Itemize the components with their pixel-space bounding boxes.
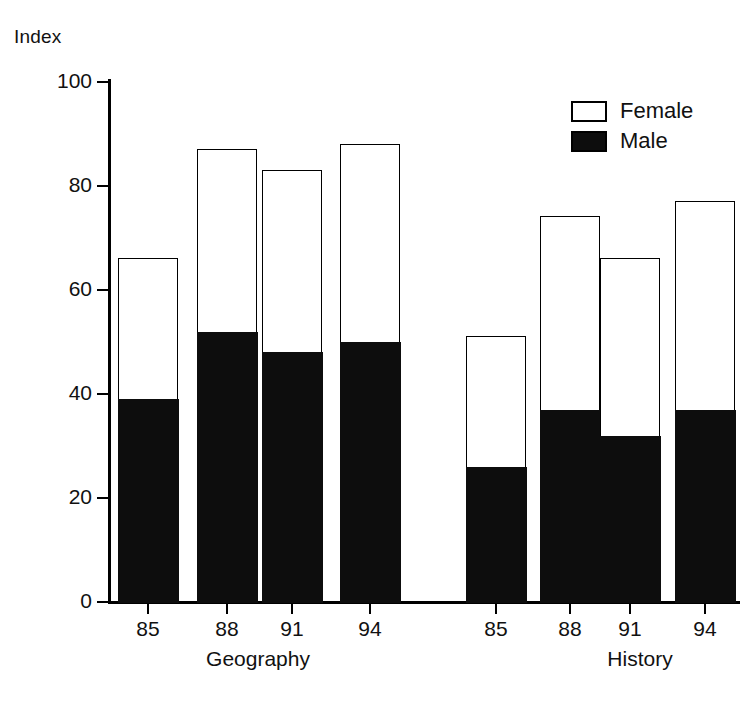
stacked-bar-chart: Index 100 80 60 40 20 0 <box>0 0 747 707</box>
x-tick-geography-91 <box>291 604 293 614</box>
group-label-history: History <box>560 647 720 671</box>
bar-history-85 <box>466 336 526 602</box>
bar-geography-94 <box>340 144 400 602</box>
y-tick-label-60: 60 <box>38 278 92 299</box>
legend: Female Male <box>571 96 741 156</box>
x-tick-label-geography-94: 94 <box>340 617 400 641</box>
bar-geography-88 <box>197 149 257 602</box>
x-tick-label-geography-91: 91 <box>262 617 322 641</box>
legend-item-male: Male <box>571 126 741 156</box>
group-label-geography: Geography <box>178 647 338 671</box>
y-tick-label-100: 100 <box>38 70 92 91</box>
y-tick-20 <box>97 497 109 499</box>
x-tick-label-history-85: 85 <box>466 617 526 641</box>
legend-label-male: Male <box>620 130 668 152</box>
y-tick-40 <box>97 393 109 395</box>
bar-history-88 <box>540 216 600 602</box>
x-tick-label-history-94: 94 <box>675 617 735 641</box>
bar-segment-male <box>540 410 601 603</box>
x-tick-history-94 <box>704 604 706 614</box>
x-tick-label-geography-85: 85 <box>118 617 178 641</box>
plot-area <box>110 81 745 602</box>
y-tick-60 <box>97 289 109 291</box>
x-tick-label-history-91: 91 <box>600 617 660 641</box>
y-axis-title: Index <box>14 26 61 48</box>
bar-history-91 <box>600 258 660 602</box>
x-tick-history-91 <box>629 604 631 614</box>
bar-geography-85 <box>118 258 178 602</box>
bar-history-94 <box>675 201 735 602</box>
x-tick-geography-85 <box>147 604 149 614</box>
x-tick-geography-94 <box>369 604 371 614</box>
legend-item-female: Female <box>571 96 741 126</box>
bar-segment-male <box>466 467 527 602</box>
legend-swatch-male-icon <box>571 131 607 152</box>
bar-segment-male <box>340 342 401 603</box>
bar-segment-male <box>262 352 323 602</box>
bar-segment-male <box>197 332 258 603</box>
bar-segment-male <box>675 410 736 603</box>
y-tick-label-80: 80 <box>38 174 92 195</box>
x-tick-label-history-88: 88 <box>540 617 600 641</box>
y-tick-80 <box>97 185 109 187</box>
bar-geography-91 <box>262 170 322 602</box>
legend-swatch-female-icon <box>571 101 607 122</box>
bar-segment-male <box>600 436 661 603</box>
y-tick-label-40: 40 <box>38 382 92 403</box>
y-tick-label-20: 20 <box>38 486 92 507</box>
x-tick-label-geography-88: 88 <box>197 617 257 641</box>
legend-label-female: Female <box>620 100 693 122</box>
x-tick-history-88 <box>569 604 571 614</box>
y-tick-label-0: 0 <box>38 590 92 611</box>
y-tick-0 <box>97 601 109 603</box>
bar-segment-male <box>118 399 179 602</box>
x-tick-history-85 <box>495 604 497 614</box>
x-tick-geography-88 <box>226 604 228 614</box>
y-tick-100 <box>97 81 109 83</box>
